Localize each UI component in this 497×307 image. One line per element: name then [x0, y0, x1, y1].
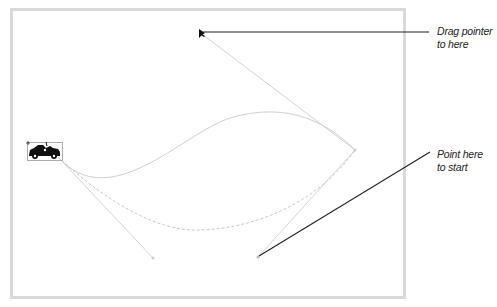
- stage-canvas: [12, 10, 405, 298]
- callout-point-start: Point here to start: [437, 148, 483, 174]
- callout-start-line1: Point here: [437, 148, 483, 161]
- callout-drag-pointer: Drag pointer to here: [437, 25, 492, 51]
- motion-path-diagram: [0, 0, 497, 307]
- handle-point-start[interactable]: [152, 257, 155, 260]
- callout-drag-line2: to here: [437, 38, 492, 51]
- callout-drag-line1: Drag pointer: [437, 25, 492, 38]
- callout-start-line2: to start: [437, 161, 483, 174]
- path-end-anchor[interactable]: [354, 149, 357, 152]
